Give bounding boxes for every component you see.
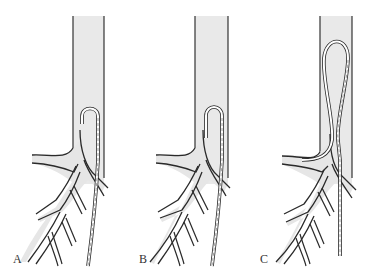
panel-b: B	[120, 0, 244, 280]
panel-c: C	[244, 0, 368, 280]
panel-label-a: A	[13, 252, 22, 267]
panel-a: A	[0, 0, 123, 280]
panel-a-drawing	[0, 0, 123, 280]
panel-c-drawing	[244, 0, 368, 280]
panel-b-drawing	[120, 0, 244, 280]
diagram-figure: A B	[0, 0, 368, 280]
panel-label-b: B	[139, 252, 147, 267]
panel-label-c: C	[260, 252, 268, 267]
